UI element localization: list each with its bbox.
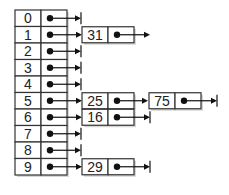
node-value-label: 25: [87, 93, 103, 109]
bucket-index-label: 7: [24, 126, 32, 142]
arrowhead-icon: [144, 32, 150, 38]
chain-node-16: 16: [82, 109, 150, 127]
chain-node-75: 75: [149, 93, 217, 111]
bucket-row-1: 131: [15, 27, 150, 45]
node-value-label: 31: [87, 27, 103, 43]
bucket-index-label: 2: [24, 43, 32, 59]
bucket-row-3: 3: [15, 60, 81, 77]
node-value-label: 29: [87, 159, 103, 175]
arrowhead-icon: [75, 131, 81, 137]
arrowhead-icon: [75, 65, 81, 71]
bucket-row-7: 7: [15, 126, 81, 143]
arrowhead-icon: [76, 98, 82, 104]
chain-node-25: 25: [82, 93, 148, 111]
hash-table-diagram: 01312345257561678929: [0, 0, 229, 195]
bucket-index-label: 1: [24, 27, 32, 43]
bucket-index-label: 3: [24, 60, 32, 76]
bucket-index-label: 4: [24, 76, 32, 92]
bucket-index-label: 9: [24, 159, 32, 175]
bucket-row-0: 0: [15, 10, 81, 27]
arrowhead-icon: [142, 98, 148, 104]
bucket-row-8: 8: [15, 142, 81, 159]
arrowhead-icon: [144, 114, 150, 120]
arrowhead-icon: [144, 164, 150, 170]
arrowhead-icon: [76, 164, 82, 170]
arrowhead-icon: [76, 32, 82, 38]
arrowhead-icon: [75, 81, 81, 87]
arrowhead-icon: [211, 98, 217, 104]
arrowhead-icon: [75, 48, 81, 54]
bucket-index-label: 0: [24, 10, 32, 26]
bucket-index-label: 8: [24, 142, 32, 158]
bucket-row-5: 52575: [15, 93, 217, 111]
arrowhead-icon: [76, 114, 82, 120]
arrowhead-icon: [75, 15, 81, 21]
node-value-label: 75: [154, 93, 170, 109]
node-value-label: 16: [87, 109, 103, 125]
bucket-row-9: 929: [15, 159, 150, 177]
bucket-row-2: 2: [15, 43, 81, 60]
bucket-row-6: 616: [15, 109, 150, 127]
bucket-index-label: 6: [24, 109, 32, 125]
bucket-index-label: 5: [24, 93, 32, 109]
chain-node-29: 29: [82, 159, 150, 177]
bucket-row-4: 4: [15, 76, 81, 93]
arrowhead-icon: [75, 147, 81, 153]
chain-node-31: 31: [82, 27, 150, 45]
